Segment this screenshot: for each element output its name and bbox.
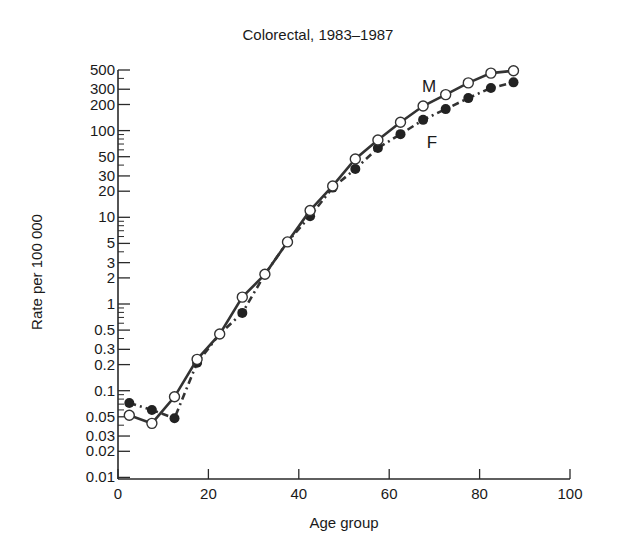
series-line	[129, 82, 513, 418]
y-tick-label: 0.1	[94, 382, 115, 399]
y-tick-label: 0.5	[94, 321, 115, 338]
chart: Colorectal, 1983–1987 Rate per 100 000 A…	[0, 0, 617, 559]
open-circle-marker	[463, 78, 473, 88]
y-tick-label: 500	[90, 61, 115, 78]
filled-circle-marker	[124, 398, 134, 408]
chart-title: Colorectal, 1983–1987	[243, 26, 394, 43]
filled-circle-marker	[147, 405, 157, 415]
open-circle-marker	[509, 66, 519, 76]
y-tick-label: 0.2	[94, 356, 115, 373]
series-M	[124, 66, 518, 429]
open-circle-marker	[147, 418, 157, 428]
open-circle-marker	[396, 117, 406, 127]
open-circle-marker	[418, 101, 428, 111]
y-tick-label: 20	[98, 182, 115, 199]
x-tick-label: 100	[557, 485, 582, 502]
open-circle-marker	[215, 329, 225, 339]
y-tick-label: 100	[90, 122, 115, 139]
filled-circle-marker	[237, 308, 247, 318]
open-circle-marker	[237, 292, 247, 302]
y-tick-label: 50	[98, 148, 115, 165]
data-series	[124, 66, 518, 429]
y-tick-label: 0.02	[86, 442, 115, 459]
filled-circle-marker	[463, 93, 473, 103]
series-line	[129, 71, 513, 424]
filled-circle-marker	[509, 77, 519, 87]
open-circle-marker	[328, 181, 338, 191]
open-circle-marker	[486, 68, 496, 78]
open-circle-marker	[192, 354, 202, 364]
series-labels: MF	[422, 77, 437, 152]
series-label-F: F	[427, 133, 437, 152]
x-tick-label: 20	[200, 485, 217, 502]
y-tick-label: 10	[98, 208, 115, 225]
open-circle-marker	[373, 135, 383, 145]
filled-circle-marker	[350, 164, 360, 174]
y-axis-label: Rate per 100 000	[28, 214, 45, 330]
x-tick-label: 40	[290, 485, 307, 502]
y-tick-label: 2	[107, 269, 115, 286]
filled-circle-marker	[486, 83, 496, 93]
open-circle-marker	[350, 154, 360, 164]
filled-circle-marker	[396, 129, 406, 139]
x-tick-label: 60	[381, 485, 398, 502]
series-label-M: M	[422, 77, 436, 96]
y-tick-label: 0.05	[86, 408, 115, 425]
open-circle-marker	[170, 392, 180, 402]
series-F	[124, 77, 518, 423]
open-circle-marker	[260, 269, 270, 279]
x-axis-label: Age group	[309, 514, 378, 531]
axes: 5003002001005030201053210.50.30.20.10.05…	[86, 61, 583, 502]
open-circle-marker	[124, 410, 134, 420]
filled-circle-marker	[170, 413, 180, 423]
open-circle-marker	[283, 237, 293, 247]
x-tick-label: 0	[114, 485, 122, 502]
y-tick-label: 200	[90, 96, 115, 113]
y-tick-label: 1	[107, 295, 115, 312]
filled-circle-marker	[418, 115, 428, 125]
x-tick-label: 80	[471, 485, 488, 502]
y-tick-label: 5	[107, 234, 115, 251]
open-circle-marker	[305, 205, 315, 215]
filled-circle-marker	[441, 104, 451, 114]
open-circle-marker	[441, 90, 451, 100]
y-tick-label: 0.01	[86, 468, 115, 485]
